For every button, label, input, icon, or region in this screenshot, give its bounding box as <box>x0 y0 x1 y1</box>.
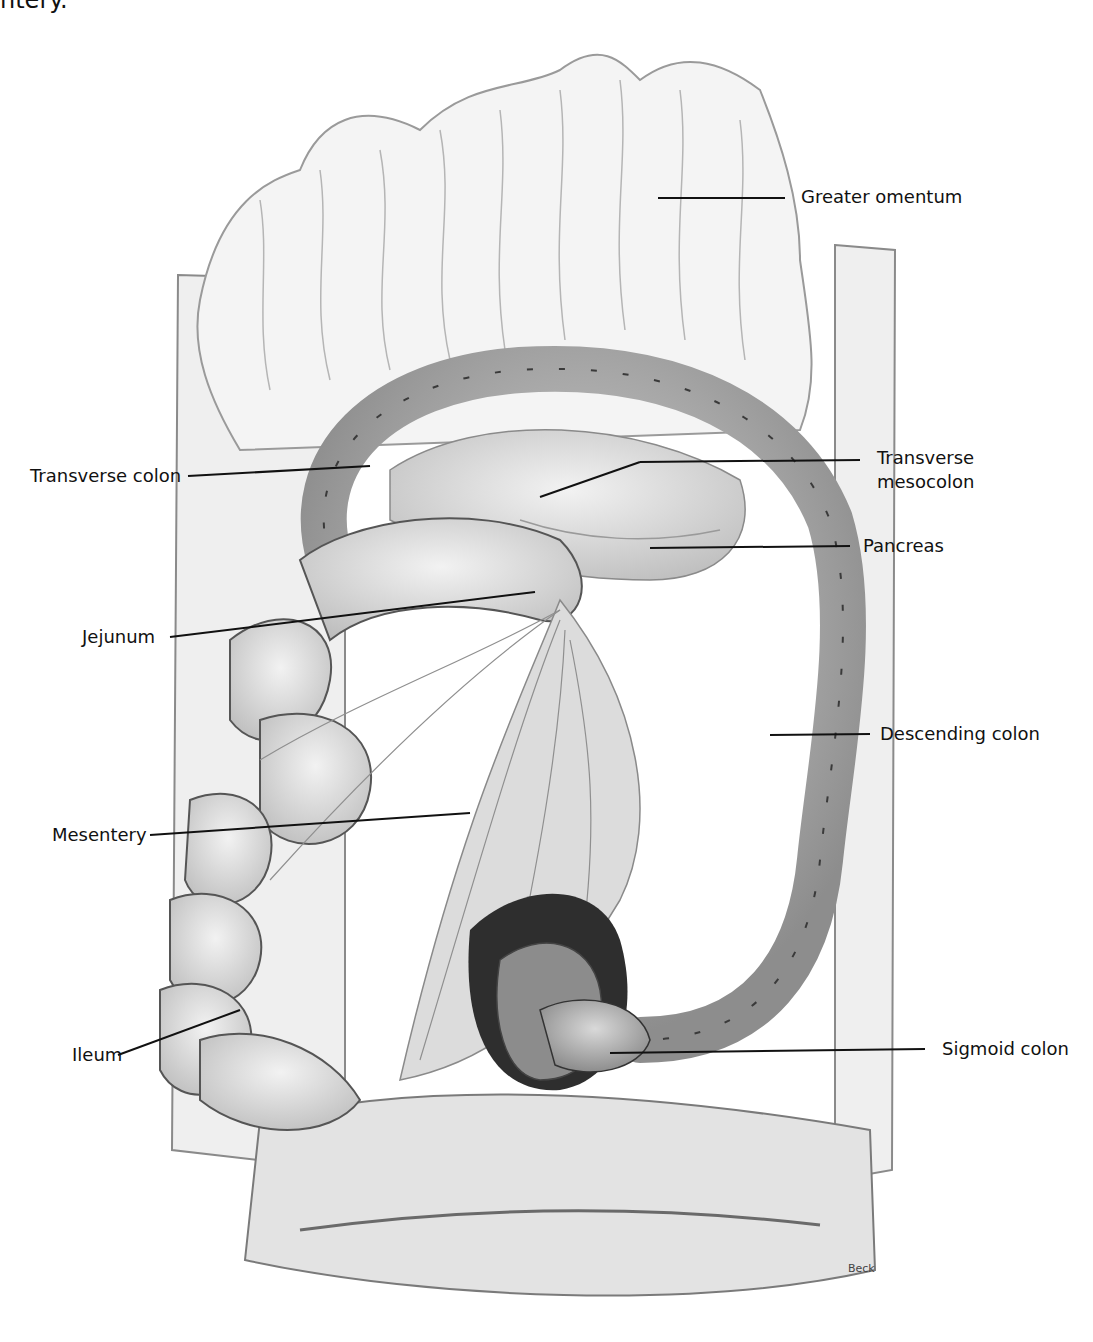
label-transverse-colon: Transverse colon <box>30 464 181 488</box>
label-sigmoid-colon: Sigmoid colon <box>942 1037 1069 1061</box>
illustrator-credit: Beck <box>848 1262 875 1275</box>
label-pancreas: Pancreas <box>863 534 944 558</box>
label-greater-omentum: Greater omentum <box>801 185 962 209</box>
label-mesentery: Mesentery <box>52 823 147 847</box>
label-jejunum: Jejunum <box>82 625 155 649</box>
pelvic-cavity <box>468 894 650 1091</box>
label-ileum: Ileum <box>72 1043 122 1067</box>
label-transverse-mesocolon: Transverse mesocolon <box>877 446 1007 494</box>
label-descending-colon: Descending colon <box>880 722 1040 746</box>
